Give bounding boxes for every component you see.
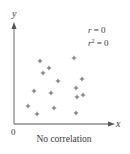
plus-marker-icon xyxy=(81,93,85,97)
plus-marker-icon xyxy=(74,111,78,115)
y-axis-arrow-icon xyxy=(12,22,17,29)
plus-marker-icon xyxy=(49,91,53,95)
y-axis xyxy=(12,22,17,124)
plus-marker-icon xyxy=(35,112,39,116)
x-axis-arrow-icon xyxy=(108,122,115,127)
plus-marker-icon xyxy=(80,77,84,81)
r-value: = 0 xyxy=(94,25,106,35)
data-points xyxy=(26,56,85,116)
plus-marker-icon xyxy=(74,86,78,90)
plus-marker-icon xyxy=(56,79,60,83)
plus-marker-icon xyxy=(72,56,76,60)
plus-marker-icon xyxy=(26,104,30,108)
plus-marker-icon xyxy=(38,59,42,63)
plus-marker-icon xyxy=(52,106,56,110)
r2-exponent: 2 xyxy=(92,38,95,44)
scatter-plot xyxy=(0,0,130,154)
chart-caption: No correlation xyxy=(0,135,128,145)
x-axis-label: x xyxy=(116,119,120,129)
plus-marker-icon xyxy=(47,66,51,70)
r2-value: = 0 xyxy=(97,38,109,48)
r-annotation: r = 0 xyxy=(88,26,106,35)
plus-marker-icon xyxy=(75,95,79,99)
r-squared-annotation: r2 = 0 xyxy=(88,38,109,48)
plus-marker-icon xyxy=(41,71,45,75)
plus-marker-icon xyxy=(32,89,36,93)
r-symbol: r xyxy=(88,25,92,35)
x-axis xyxy=(14,122,115,127)
y-axis-label: y xyxy=(12,9,16,19)
